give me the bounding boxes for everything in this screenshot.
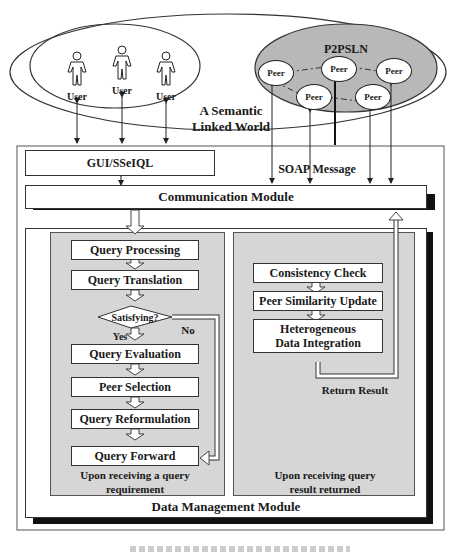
query-caption-line1: Upon receiving a query bbox=[60, 468, 210, 482]
step-query-translation[interactable]: Query Translation bbox=[71, 270, 199, 290]
step-heterogeneous-data-integration[interactable]: Heterogeneous Data Integration bbox=[253, 319, 383, 353]
query-panel-caption: Upon receiving a query requirement bbox=[60, 468, 210, 496]
comm-to-query-arrow bbox=[126, 210, 144, 234]
step-query-processing[interactable]: Query Processing bbox=[71, 240, 199, 260]
result-caption-line1: Upon receiving query bbox=[250, 468, 400, 482]
decision-satisfying: Satisfying? bbox=[100, 311, 170, 325]
query-caption-line2: requirement bbox=[60, 482, 210, 496]
step-peer-similarity-update[interactable]: Peer Similarity Update bbox=[253, 291, 383, 311]
yes-label: Yes bbox=[108, 330, 132, 344]
return-result-label: Return Result bbox=[310, 383, 400, 397]
figure-caption-cropped bbox=[130, 546, 350, 552]
integration-line1: Heterogeneous bbox=[280, 322, 356, 336]
step-consistency-check[interactable]: Consistency Check bbox=[253, 263, 383, 283]
step-peer-selection[interactable]: Peer Selection bbox=[71, 377, 199, 397]
result-panel-caption: Upon receiving query result returned bbox=[250, 468, 400, 496]
step-query-reformulation[interactable]: Query Reformulation bbox=[71, 409, 199, 429]
step-query-evaluation[interactable]: Query Evaluation bbox=[71, 344, 199, 364]
integration-line2: Data Integration bbox=[275, 336, 361, 350]
result-caption-line2: result returned bbox=[250, 482, 400, 496]
step-query-forward[interactable]: Query Forward bbox=[71, 446, 199, 466]
no-label: No bbox=[178, 323, 198, 337]
